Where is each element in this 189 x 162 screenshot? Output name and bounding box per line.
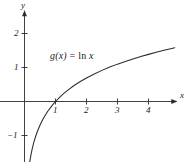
y-tick-label-1: 1 — [14, 63, 19, 72]
x-axis-label: x — [180, 91, 184, 100]
function-equation-label: g(x) = ln x — [50, 51, 94, 61]
function-equation-equals: = — [67, 50, 78, 61]
x-tick-label-4: 4 — [146, 106, 151, 115]
x-tick-label-1: 1 — [53, 106, 58, 115]
function-equation-arg: x — [86, 50, 93, 61]
y-axis-label: y — [21, 1, 25, 10]
graph-canvas — [0, 0, 189, 162]
y-axis-arrowhead — [22, 10, 27, 16]
x-axis-arrowhead — [171, 99, 177, 104]
function-equation-g: g(x) — [50, 50, 67, 61]
y-tick-label-minus-1: −1 — [7, 131, 18, 140]
x-tick-label-3: 3 — [115, 106, 120, 115]
ln-curve — [29, 48, 175, 162]
x-tick-label-2: 2 — [84, 106, 89, 115]
y-tick-label-2: 2 — [14, 29, 19, 38]
ln-function-graph-figure: 1 2 3 4 2 1 −1 x y g(x) = ln x — [0, 0, 189, 162]
